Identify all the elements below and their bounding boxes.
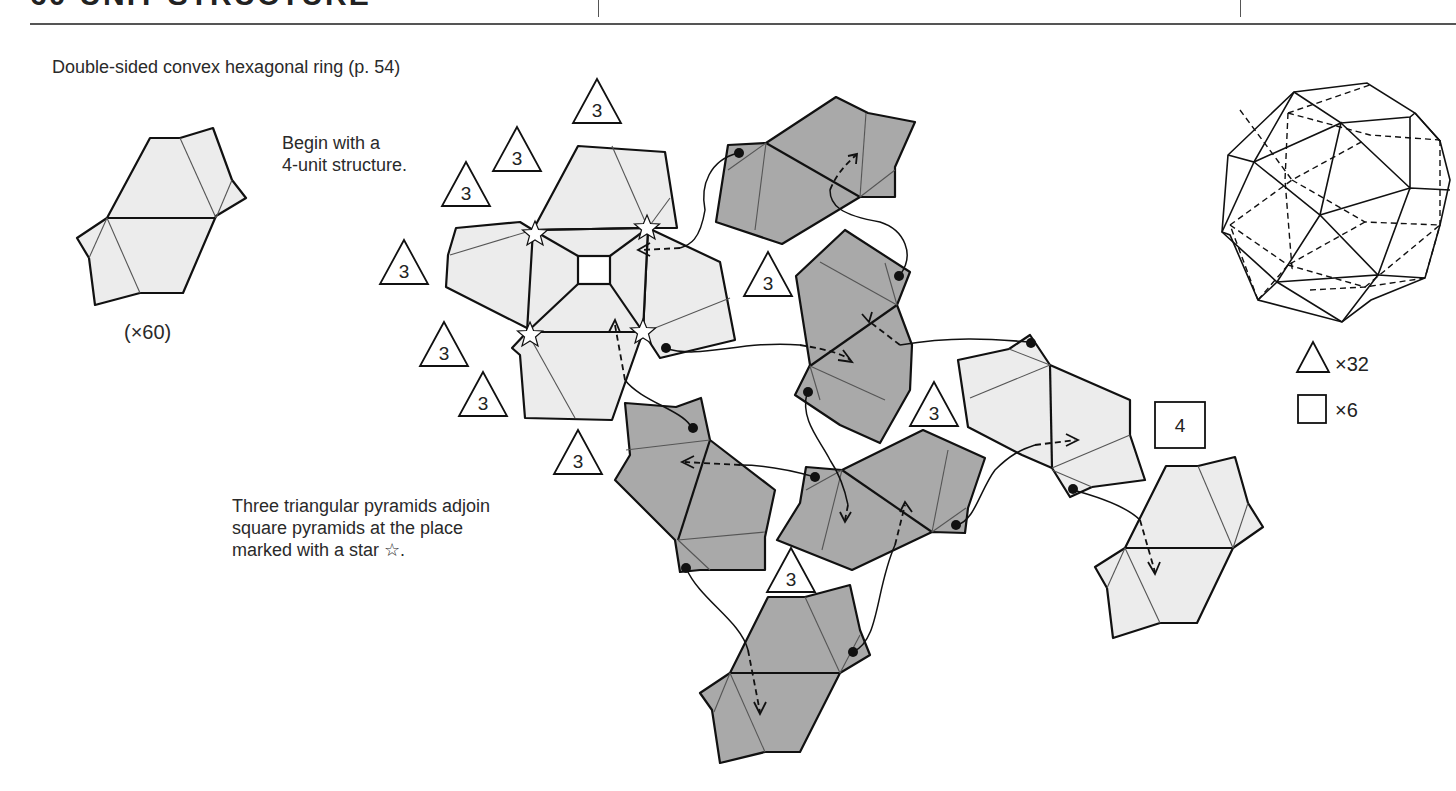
- triangle-badge: 3: [767, 548, 815, 592]
- triangle-badge: 3: [744, 252, 792, 296]
- single-unit-icon: [77, 128, 246, 305]
- triangle-badge: 3: [380, 240, 428, 284]
- triangle-badge: 3: [554, 430, 602, 474]
- triangle-badge: 3: [420, 322, 468, 366]
- svg-text:3: 3: [512, 148, 523, 169]
- triangle-badge: 3: [493, 127, 541, 171]
- svg-text:3: 3: [929, 403, 940, 424]
- assembly-diagram: 3 3 3 3 3 3 3 3 3 3 4: [0, 0, 1456, 791]
- svg-text:3: 3: [439, 343, 450, 364]
- triangle-badge: 3: [573, 79, 621, 123]
- svg-text:3: 3: [763, 273, 774, 294]
- svg-text:3: 3: [399, 261, 410, 282]
- svg-text:3: 3: [786, 569, 797, 590]
- dark-unit: [795, 230, 912, 443]
- triangle-badge: 3: [442, 162, 490, 206]
- triangle-badge: 3: [459, 372, 507, 416]
- dark-unit: [716, 97, 915, 244]
- square-badge: 4: [1155, 402, 1205, 448]
- polyhedron-wireframe: [1222, 83, 1450, 322]
- svg-text:3: 3: [461, 183, 472, 204]
- light-unit: [958, 335, 1145, 497]
- triangle-badge: 3: [910, 382, 958, 426]
- four-unit-structure: [446, 146, 735, 420]
- legend-square-count: ×6: [1335, 399, 1358, 422]
- svg-text:4: 4: [1175, 415, 1186, 436]
- legend-triangle-icon: [1297, 342, 1329, 372]
- svg-text:3: 3: [592, 100, 603, 121]
- legend-triangle-count: ×32: [1335, 353, 1369, 376]
- dark-unit: [777, 430, 985, 570]
- legend-square-icon: [1298, 395, 1326, 423]
- svg-text:3: 3: [478, 393, 489, 414]
- dark-unit: [700, 585, 870, 763]
- svg-text:3: 3: [573, 451, 584, 472]
